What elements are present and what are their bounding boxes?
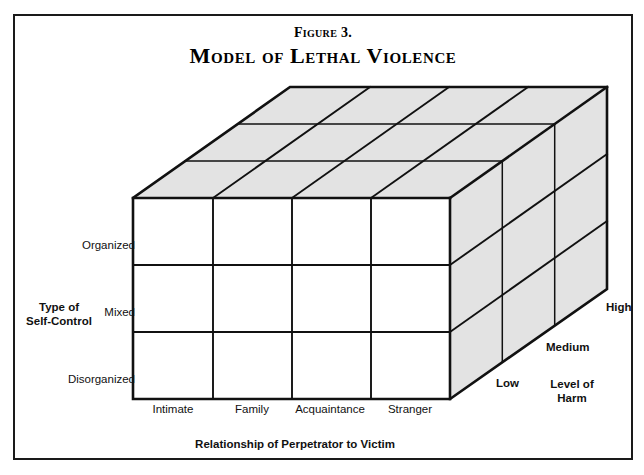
x-axis-tick-intimate: Intimate [133, 403, 213, 415]
z-axis-tick-low: Low [496, 377, 519, 389]
y-axis-title-line2: Self-Control [26, 315, 92, 327]
z-axis-title: Level of Harm [534, 377, 610, 405]
y-axis-tick-organized: Organized [75, 239, 135, 251]
z-axis-tick-high: High [606, 301, 632, 313]
y-axis-title: Type of Self-Control [17, 300, 101, 328]
x-axis-tick-stranger: Stranger [370, 403, 450, 415]
z-axis-title-line2: Harm [557, 392, 586, 404]
z-axis-title-line1: Level of [550, 378, 593, 390]
x-axis-tick-acquaintance: Acquaintance [287, 403, 373, 415]
y-axis-tick-disorganized: Disorganized [59, 373, 135, 385]
z-axis-tick-medium: Medium [546, 341, 589, 353]
x-axis-title: Relationship of Perpetrator to Victim [135, 437, 455, 451]
y-axis-title-line1: Type of [39, 301, 79, 313]
figure-frame: Figure 3. Model of Lethal Violence [13, 14, 633, 460]
x-axis-tick-family: Family [212, 403, 292, 415]
